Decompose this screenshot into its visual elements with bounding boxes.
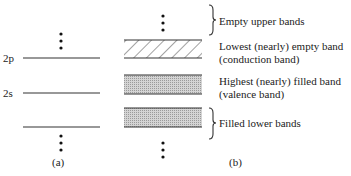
valence-band bbox=[124, 75, 202, 94]
ellipsis-dots-top-a bbox=[59, 32, 62, 49]
level-2s-label: 2s bbox=[3, 87, 13, 99]
level-2p-label: 2p bbox=[3, 52, 14, 64]
band-diagram: 2p 2s (a) Empty upper bands Lowest (near… bbox=[0, 0, 351, 176]
label-valence-line1: Highest (nearly) filled band bbox=[219, 75, 341, 87]
brace-filled-lower-icon bbox=[209, 108, 216, 139]
caption-a: (a) bbox=[52, 156, 64, 168]
filled-lower-band bbox=[124, 108, 202, 127]
ellipsis-dots-top-b bbox=[161, 14, 164, 31]
label-conduction-line2: (conduction band) bbox=[219, 53, 299, 65]
ellipsis-dots-bottom-b bbox=[161, 141, 164, 158]
brace-empty-upper-icon bbox=[209, 5, 216, 35]
label-valence-line2: (valence band) bbox=[219, 88, 284, 100]
label-empty-upper-bands: Empty upper bands bbox=[219, 15, 305, 27]
caption-b: (b) bbox=[229, 156, 242, 168]
conduction-band bbox=[124, 40, 202, 58]
panel-b bbox=[124, 5, 216, 159]
label-conduction-line1: Lowest (nearly) empty band bbox=[219, 40, 343, 52]
panel-a bbox=[23, 32, 100, 151]
ellipsis-dots-bottom-a bbox=[59, 134, 62, 151]
label-filled-lower-bands: Filled lower bands bbox=[219, 117, 301, 129]
